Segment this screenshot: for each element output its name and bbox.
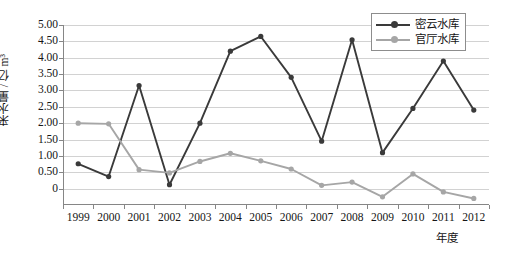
y-axis-label: 2.00 — [38, 117, 58, 129]
data-point — [167, 170, 172, 175]
y-axis-tick-labels: 00.501.001.502.002.503.003.504.004.505.0… — [0, 25, 58, 205]
legend-item-0[interactable]: 密云水库 — [376, 17, 459, 32]
data-point — [471, 107, 476, 112]
data-point — [349, 37, 354, 42]
x-tick-mark — [306, 205, 307, 209]
legend: 密云水库 官厅水库 — [371, 13, 466, 51]
data-point — [349, 179, 354, 184]
data-point — [319, 139, 324, 144]
y-axis-label: 4.00 — [38, 52, 58, 64]
x-tick-mark — [367, 205, 368, 209]
legend-swatch-icon-0 — [376, 19, 410, 30]
data-point — [289, 75, 294, 80]
x-axis-label: 2004 — [219, 212, 242, 224]
data-point — [136, 167, 141, 172]
x-axis-label: 1999 — [67, 212, 90, 224]
data-point — [258, 34, 263, 39]
series-lines — [63, 25, 489, 205]
data-point — [106, 174, 111, 179]
x-tick-mark — [428, 205, 429, 209]
data-point — [319, 183, 324, 188]
data-point — [441, 189, 446, 194]
data-point — [228, 49, 233, 54]
x-tick-mark — [124, 205, 125, 209]
y-axis-label: 5.00 — [38, 19, 58, 31]
x-axis-label: 2008 — [341, 212, 364, 224]
data-point — [167, 182, 172, 187]
x-tick-mark — [93, 205, 94, 209]
data-point — [380, 150, 385, 155]
y-axis-label: 2.50 — [38, 101, 58, 113]
x-axis-label: 2002 — [158, 212, 181, 224]
x-axis-title: 年度 — [436, 233, 458, 245]
data-point — [228, 151, 233, 156]
x-axis-label: 2011 — [432, 212, 455, 224]
data-point — [258, 158, 263, 163]
x-axis-label: 2012 — [462, 212, 485, 224]
x-tick-mark — [154, 205, 155, 209]
x-tick-mark — [337, 205, 338, 209]
data-point — [76, 161, 81, 166]
x-tick-mark — [276, 205, 277, 209]
data-point — [471, 196, 476, 201]
legend-item-1[interactable]: 官厅水库 — [376, 32, 459, 47]
x-axis-label: 2007 — [310, 212, 333, 224]
x-tick-mark — [489, 205, 490, 209]
y-axis-label: 3.00 — [38, 85, 58, 97]
x-axis-label: 2005 — [249, 212, 272, 224]
y-axis-label: 0 — [52, 183, 58, 195]
data-point — [410, 106, 415, 111]
y-axis-label: 0.50 — [38, 167, 58, 179]
data-point — [410, 171, 415, 176]
data-point — [197, 121, 202, 126]
legend-label-1: 官厅水库 — [415, 34, 459, 46]
legend-swatch-icon-1 — [376, 34, 410, 45]
x-axis-label: 2003 — [188, 212, 211, 224]
x-tick-mark — [215, 205, 216, 209]
data-point — [289, 166, 294, 171]
x-tick-mark — [63, 205, 64, 209]
y-axis-label: 4.50 — [38, 36, 58, 48]
data-point — [106, 121, 111, 126]
series-line-1 — [78, 123, 474, 198]
y-axis-label: 1.50 — [38, 134, 58, 146]
data-point — [197, 159, 202, 164]
data-point — [76, 121, 81, 126]
x-axis-label: 2001 — [128, 212, 151, 224]
x-tick-mark — [185, 205, 186, 209]
x-axis-label: 2009 — [371, 212, 394, 224]
y-axis-label: 1.00 — [38, 150, 58, 162]
legend-label-0: 密云水库 — [415, 19, 459, 31]
x-tick-mark — [398, 205, 399, 209]
x-axis-label: 2000 — [97, 212, 120, 224]
data-point — [441, 58, 446, 63]
data-point — [380, 194, 385, 199]
x-axis-label: 2010 — [401, 212, 424, 224]
x-tick-mark — [246, 205, 247, 209]
series-line-0 — [78, 36, 474, 184]
x-axis-label: 2006 — [280, 212, 303, 224]
y-axis-label: 3.50 — [38, 68, 58, 80]
plot-area — [63, 25, 489, 205]
x-tick-mark — [459, 205, 460, 209]
chart-container: 来水量 / 亿 m³ 年度 00.501.001.502.002.503.003… — [0, 0, 510, 262]
data-point — [136, 83, 141, 88]
